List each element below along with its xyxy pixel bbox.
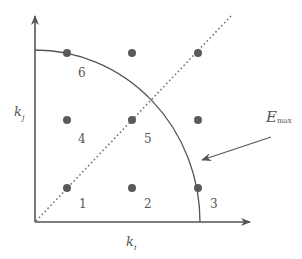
x-axis-label-sub: i [134,243,137,252]
k-space-diagram [0,0,302,259]
point-label-5: 5 [144,133,152,145]
emax-label: Emax [266,110,292,125]
point-4 [63,116,71,124]
point-label-6: 6 [78,67,86,79]
point-label-4: 4 [78,133,86,145]
point-label-1: 1 [79,198,87,210]
point-2 [128,184,136,192]
y-axis-label-base: k [14,104,22,119]
emax-label-base: E [266,108,277,126]
point-5 [128,116,136,124]
x-axis-label: ki [126,235,136,252]
point-label-3: 3 [210,198,218,210]
point-1 [63,184,71,192]
point-label-2: 2 [144,198,152,210]
y-axis-label-sub: j [22,113,24,122]
emax-arrow [202,137,271,160]
point-6 [63,49,71,57]
emax-label-sub: max [277,117,292,125]
x-axis-label-base: k [126,234,134,249]
point-unlabeled-r2c3 [194,116,202,124]
point-unlabeled-r3c3 [194,49,202,57]
point-unlabeled-r3c2 [128,49,136,57]
y-axis-label: kj [14,105,24,122]
point-3 [194,184,202,192]
